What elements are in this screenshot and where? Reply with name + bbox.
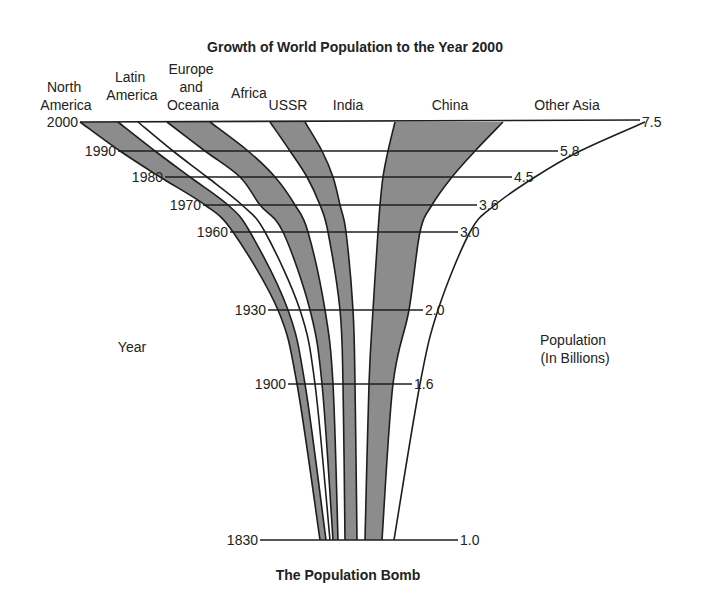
year-label: 1960 xyxy=(197,224,228,240)
year-label: 1830 xyxy=(227,532,258,548)
population-label: 7.5 xyxy=(642,114,662,130)
population-label: 1.6 xyxy=(414,376,434,392)
region-boundaries xyxy=(80,122,645,540)
label-europe-oceania: Europe and Oceania xyxy=(167,61,219,113)
year-label: 1980 xyxy=(132,169,163,185)
region-labels: North America Latin America Europe and O… xyxy=(40,61,600,113)
population-label: 4.5 xyxy=(514,169,534,185)
population-label: 5.8 xyxy=(560,143,580,159)
year-label: 1970 xyxy=(170,197,201,213)
population-chart: Growth of World Population to the Year 2… xyxy=(0,0,710,604)
chart-footer: The Population Bomb xyxy=(276,567,421,583)
label-latin-america: Latin America xyxy=(106,69,158,103)
gridline-2000 xyxy=(80,120,640,122)
year-label: 1990 xyxy=(85,143,116,159)
year-gridlines xyxy=(80,120,640,540)
population-label: 3.0 xyxy=(460,224,480,240)
population-label: 2.0 xyxy=(425,302,445,318)
band-north-america xyxy=(80,122,326,540)
year-label: 1900 xyxy=(255,376,286,392)
year-label: 2000 xyxy=(47,114,78,130)
label-ussr: USSR xyxy=(269,97,308,113)
chart-title: Growth of World Population to the Year 2… xyxy=(207,39,503,55)
boundary-2 xyxy=(138,122,330,540)
year-axis-label: Year xyxy=(118,339,147,355)
population-axis-label: Population (In Billions) xyxy=(540,332,610,366)
label-india: India xyxy=(333,97,364,113)
label-africa: Africa xyxy=(231,85,267,101)
population-label: 3.6 xyxy=(479,197,499,213)
label-other-asia: Other Asia xyxy=(534,97,600,113)
year-label: 1930 xyxy=(235,302,266,318)
label-china: China xyxy=(432,97,469,113)
label-north-america: North America xyxy=(40,79,92,113)
population-label: 1.0 xyxy=(460,532,480,548)
